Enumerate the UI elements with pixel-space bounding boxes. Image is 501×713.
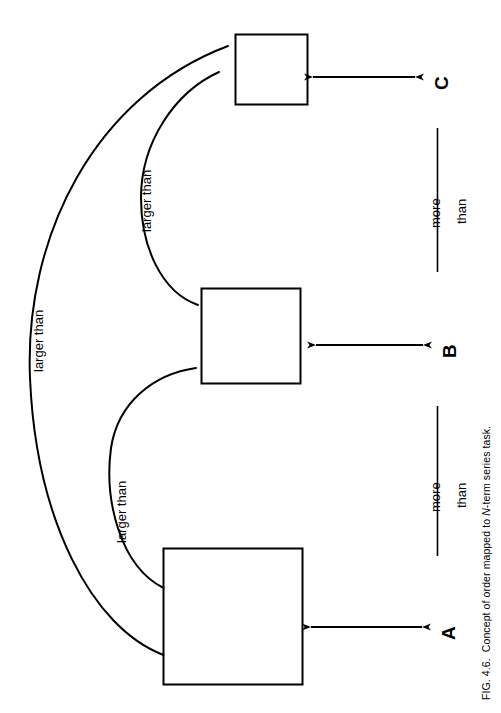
arc-label-b-to-c: larger than: [140, 170, 153, 232]
figure-page: C B A larger than larger than larger tha…: [0, 0, 501, 713]
arc-a-to-b: [109, 368, 196, 588]
figure-caption-after: -term series task.: [480, 426, 492, 508]
node-box-a: [164, 549, 303, 685]
relation-denominator-upper: than: [455, 199, 468, 224]
figure-caption-number: FIG. 4.6.: [480, 658, 492, 700]
node-label-a: A: [439, 626, 458, 640]
node-box-b: [202, 289, 301, 384]
figure-plate: C B A larger than larger than larger tha…: [0, 0, 501, 713]
relation-numerator-upper: more: [429, 198, 442, 228]
arc-label-a-to-b: larger than: [115, 481, 128, 543]
node-box-c: [236, 35, 308, 105]
relation-denominator-lower: than: [455, 483, 468, 508]
arc-label-a-to-c: larger than: [32, 310, 45, 372]
node-label-b: B: [440, 344, 459, 358]
relation-numerator-lower: more: [429, 482, 442, 512]
figure-caption-italic: N: [480, 508, 492, 516]
figure-caption: FIG. 4.6. Concept of order mapped to N-t…: [481, 426, 492, 700]
node-label-c: C: [432, 76, 451, 90]
figure-caption-before: Concept of order mapped to: [480, 516, 492, 652]
order-concept-diagram: [0, 0, 501, 713]
arc-a-to-c: [30, 46, 228, 655]
